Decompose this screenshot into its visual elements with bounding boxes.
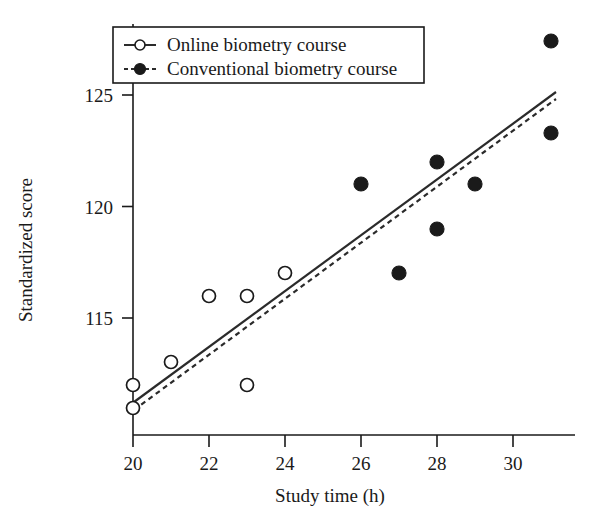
scatter-plot-figure: 125 120 115 20 22 24 26 28 30 Study time… [0,0,601,517]
legend-label-online: Online biometry course [167,34,346,55]
x-tick-label-22: 22 [200,453,219,474]
data-point-filled [430,222,444,236]
data-point-filled [430,155,444,169]
data-point-open [127,402,140,415]
x-tick-label-26: 26 [352,453,371,474]
data-point-filled [354,177,368,191]
data-point-filled [392,266,406,280]
x-tick-label-24: 24 [276,453,296,474]
data-point-filled [544,126,558,140]
data-point-filled [544,34,558,48]
x-tick-label-28: 28 [428,453,447,474]
data-point-open [279,267,292,280]
data-point-open [127,379,140,392]
data-point-open [241,379,254,392]
data-point-open [241,290,254,303]
y-axis-title: Standardized score [15,178,36,322]
legend-marker-open-circle-icon [135,40,145,50]
x-tick-label-30: 30 [504,453,523,474]
data-point-filled [468,177,482,191]
y-tick-label-125: 125 [85,85,114,106]
y-tick-label-115: 115 [85,308,113,329]
legend-label-conventional: Conventional biometry course [167,58,397,79]
legend-marker-filled-circle-icon [135,64,146,75]
x-axis-title: Study time (h) [275,485,385,507]
x-tick-label-20: 20 [124,453,143,474]
y-tick-label-120: 120 [85,197,114,218]
legend: Online biometry course Conventional biom… [113,27,424,83]
data-point-open [165,356,178,369]
data-point-open [203,290,216,303]
chart-svg: 125 120 115 20 22 24 26 28 30 Study time… [0,0,601,517]
